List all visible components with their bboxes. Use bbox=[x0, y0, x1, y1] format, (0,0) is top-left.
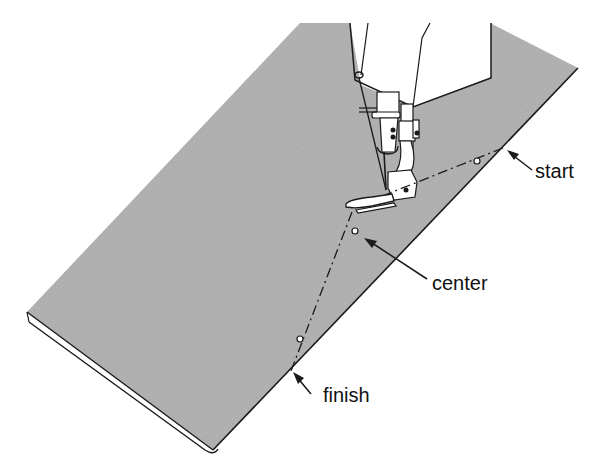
diagram: start center finish bbox=[0, 0, 602, 471]
finish-dot bbox=[297, 336, 303, 342]
start-dot bbox=[474, 158, 480, 164]
finish-arrow-icon bbox=[293, 372, 311, 394]
center-dot bbox=[352, 228, 358, 234]
start-label: start bbox=[535, 161, 574, 181]
start-arrow-icon bbox=[507, 150, 532, 170]
center-label: center bbox=[432, 273, 488, 293]
finish-label: finish bbox=[323, 385, 370, 405]
fabric bbox=[27, 23, 578, 450]
